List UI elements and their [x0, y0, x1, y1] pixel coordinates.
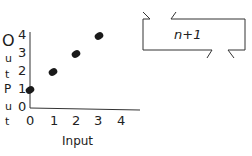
data-points [24, 31, 104, 96]
ylabel-letter: P [4, 83, 11, 96]
output-notch-left [207, 50, 212, 58]
y-tick: 2 [18, 64, 26, 77]
x-axis-label: Input [62, 134, 93, 148]
ylabel-letter: t [5, 68, 9, 81]
x-tick: 0 [26, 114, 34, 127]
y-tick: 0 [18, 100, 26, 113]
input-output-chart: O u t P u t 4 3 2 1 0 0 1 2 3 4 Input n+… [0, 0, 252, 156]
ylabel-letter: u [5, 100, 12, 113]
data-point [93, 31, 104, 42]
ylabel-letter: t [5, 115, 9, 128]
y-tick: 1 [18, 82, 26, 95]
output-notch-right [228, 50, 234, 58]
function-rule: n+1 [174, 27, 201, 42]
ylabel-letter: u [5, 52, 12, 65]
x-axis [30, 108, 140, 110]
input-notch-right [171, 12, 176, 19]
x-tick: 3 [94, 114, 102, 127]
input-notch-left [143, 12, 150, 19]
data-point [70, 49, 81, 60]
x-tick: 2 [72, 114, 80, 127]
chart-canvas [0, 0, 252, 156]
y-tick: 4 [18, 28, 26, 41]
x-tick: 1 [50, 114, 58, 127]
data-point [47, 67, 58, 78]
x-tick: 4 [117, 114, 125, 127]
y-tick: 3 [18, 46, 26, 59]
ylabel-letter: O [2, 34, 15, 47]
